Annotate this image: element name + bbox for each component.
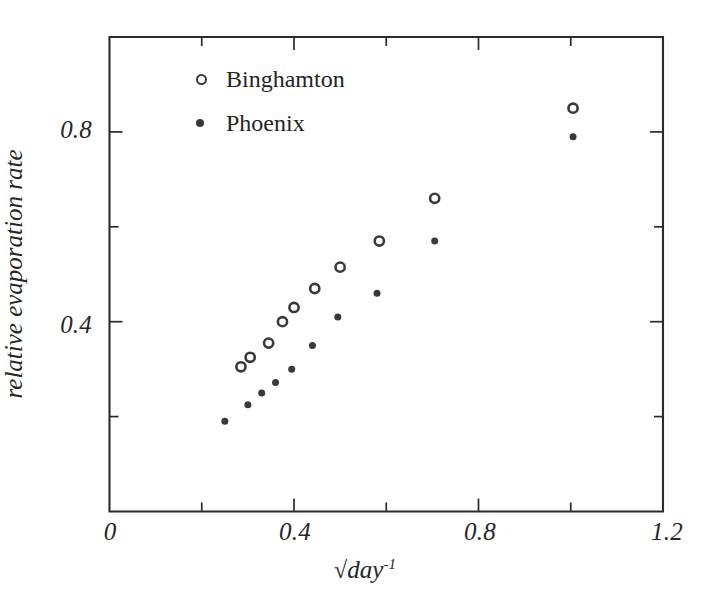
data-point: [288, 366, 295, 373]
data-point: [570, 133, 577, 140]
plot-frame: [110, 37, 664, 512]
data-point: [258, 389, 265, 396]
filled-circle-icon: [196, 119, 218, 127]
x-axis-title-exponent: -1: [383, 556, 396, 572]
data-point: [375, 236, 384, 245]
legend-label-phoenix: Phoenix: [226, 110, 305, 137]
scatter-plot: [0, 0, 711, 606]
sqrt-icon: √: [334, 557, 347, 583]
data-point: [336, 263, 345, 272]
data-point: [334, 313, 341, 320]
legend-entry-phoenix: Phoenix: [196, 110, 305, 136]
series-binghamton: [236, 104, 577, 372]
x-axis-title: √day-1: [334, 556, 396, 584]
legend-label-binghamton: Binghamton: [226, 66, 345, 93]
x-tick-label-3: 1.2: [651, 518, 683, 546]
data-point: [309, 342, 316, 349]
data-point: [310, 284, 319, 293]
x-axis-title-base: day: [347, 556, 383, 583]
data-point: [264, 338, 273, 347]
data-point: [246, 353, 255, 362]
open-circle-icon: [196, 74, 218, 85]
data-point: [236, 362, 245, 371]
data-point: [289, 303, 298, 312]
data-point: [568, 104, 577, 113]
x-tick-label-1: 0.4: [279, 518, 311, 546]
data-point: [221, 418, 228, 425]
frame-rect: [110, 37, 664, 512]
x-tick-label-2: 0.8: [464, 518, 496, 546]
data-point: [272, 379, 279, 386]
series-phoenix: [221, 133, 576, 425]
data-point: [430, 194, 439, 203]
legend-entry-binghamton: Binghamton: [196, 66, 345, 92]
y-tick-label-1: 0.8: [40, 116, 92, 144]
data-point: [278, 317, 287, 326]
data-point: [244, 401, 251, 408]
data-point: [374, 290, 381, 297]
axis-ticks: [110, 37, 664, 512]
figure-container: 0 0.4 0.8 1.2 0.4 0.8 √day-1 relative ev…: [0, 0, 711, 606]
data-point: [431, 238, 438, 245]
y-tick-label-0: 0.4: [40, 311, 92, 339]
y-axis-title: relative evaporation rate: [0, 124, 28, 424]
data-points: [221, 104, 577, 425]
x-tick-label-0: 0: [104, 518, 117, 546]
